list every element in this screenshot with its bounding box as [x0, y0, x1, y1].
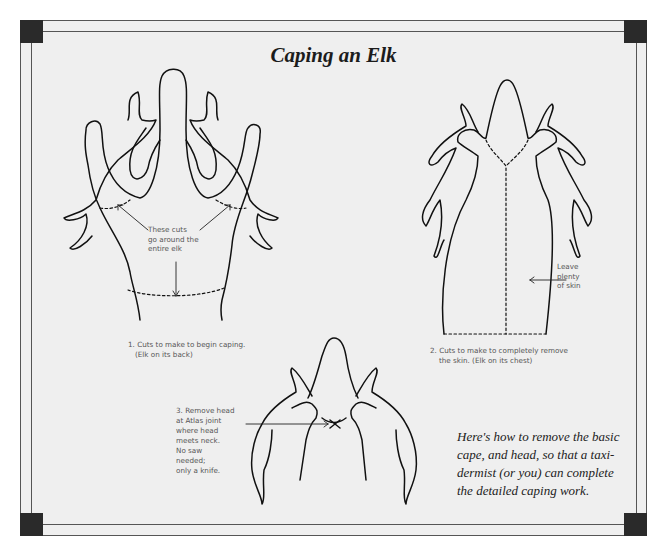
elk-on-chest-illustration [423, 80, 592, 334]
callout-leave-skin: Leave plenty of skin [557, 262, 581, 291]
head-removal-illustration [246, 338, 416, 504]
figure-1-caption-line1: 1. Cuts to make to begin caping. [128, 340, 245, 350]
figure-3-caption: 3. Remove head at Atlas joint where head… [176, 406, 235, 476]
figure-2-caption-line2: the skin. (Elk on its chest) [439, 356, 532, 366]
figure-2-caption-line1: 2. Cuts to make to completely remove [430, 346, 568, 356]
figure-1-caption-line2: (Elk on its back) [135, 350, 193, 360]
summary-note: Here's how to remove the basic cape, and… [457, 428, 647, 500]
elk-on-back-illustration [64, 69, 278, 320]
callout-neck-cuts: These cuts go around the entire elk [148, 225, 199, 254]
